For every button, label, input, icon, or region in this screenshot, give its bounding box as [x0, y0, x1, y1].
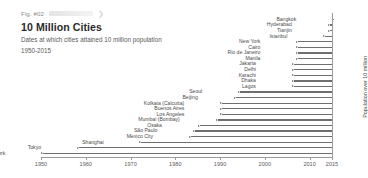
bar-row: Shanghai: [0, 140, 332, 145]
x-axis-tick: [220, 157, 221, 160]
bar[interactable]: [292, 67, 332, 72]
x-axis-tick-label: 2010: [303, 161, 315, 168]
bar-start-arrow-icon: [296, 46, 298, 48]
bar-row: Rio de Janeiro: [0, 51, 332, 56]
bar-fill: [294, 80, 332, 81]
bar-row: New York: [0, 40, 332, 45]
bar[interactable]: [292, 84, 332, 89]
bar-label: Istanbul: [269, 34, 289, 39]
bar[interactable]: [139, 140, 331, 145]
bar-label: Shanghai: [82, 140, 106, 145]
x-axis-tick: [41, 157, 42, 160]
bar[interactable]: [198, 123, 332, 128]
bar-start-arrow-icon: [238, 91, 240, 93]
x-axis-tick-label: 1970: [124, 161, 136, 168]
x-axis-tick-label: 1960: [80, 161, 92, 168]
bar-start-arrow-icon: [292, 85, 294, 87]
bar-fill: [195, 130, 331, 131]
bar-start-arrow-icon: [292, 80, 294, 82]
bar-row: Istanbul: [0, 34, 332, 39]
bar[interactable]: [220, 112, 332, 117]
bar[interactable]: [238, 90, 332, 95]
bar[interactable]: [292, 79, 332, 84]
bar-row: Lagos: [0, 84, 332, 89]
bar-row: Mexico City: [0, 134, 332, 139]
bar[interactable]: [193, 129, 331, 134]
bar[interactable]: [220, 101, 332, 106]
bar-fill: [200, 125, 332, 126]
bar[interactable]: [328, 23, 332, 28]
bar-start-arrow-icon: [296, 41, 298, 43]
bar-fill: [43, 153, 332, 154]
bar-fill: [222, 114, 332, 115]
bar-row: Seoul: [0, 90, 332, 95]
bar-row: São Paulo: [0, 129, 332, 134]
bar-row: Cairo: [0, 45, 332, 50]
right-axis-line: [332, 13, 333, 157]
bar-fill: [218, 119, 332, 120]
bar-label: Lagos: [242, 84, 258, 89]
bar-fill: [298, 58, 331, 59]
bar-fill: [222, 103, 332, 104]
bar-fill: [236, 97, 332, 98]
x-axis-tick: [131, 157, 132, 160]
bar-start-arrow-icon: [77, 147, 79, 149]
bar[interactable]: [323, 34, 332, 39]
bar-fill: [294, 64, 332, 65]
bar-fill: [294, 69, 332, 70]
bar-start-arrow-icon: [328, 24, 330, 26]
bar-start-arrow-icon: [220, 102, 222, 104]
x-axis-tick: [86, 157, 87, 160]
bar[interactable]: [189, 134, 332, 139]
x-axis-tick: [175, 157, 176, 160]
x-axis-tick-label: 1980: [169, 161, 181, 168]
bar-row: New York: [0, 151, 332, 156]
bar[interactable]: [292, 73, 332, 78]
bar-fill: [191, 136, 332, 137]
bar[interactable]: [292, 62, 332, 67]
bar[interactable]: [220, 106, 332, 111]
bar-start-arrow-icon: [296, 52, 298, 54]
bar-row: Tokyo: [0, 146, 332, 151]
bar-start-arrow-icon: [234, 97, 236, 99]
bar-fill: [325, 36, 332, 37]
bar-start-arrow-icon: [189, 136, 191, 138]
bar-row: Manila: [0, 56, 332, 61]
bar[interactable]: [77, 146, 332, 151]
bar-start-arrow-icon: [323, 35, 325, 37]
bar[interactable]: [296, 40, 331, 45]
bar[interactable]: [328, 28, 332, 33]
bar-start-arrow-icon: [296, 58, 298, 60]
bar-row: Karachi: [0, 73, 332, 78]
bar[interactable]: [296, 45, 331, 50]
x-axis-tick-label: 1990: [214, 161, 226, 168]
bar[interactable]: [296, 51, 331, 56]
bar-label: Mexico City: [127, 134, 156, 139]
bar-row: Jakarta: [0, 62, 332, 67]
bar-start-arrow-icon: [193, 130, 195, 132]
bar-fill: [141, 142, 331, 143]
bar-start-arrow-icon: [41, 152, 43, 154]
bar-start-arrow-icon: [220, 113, 222, 115]
bar-start-arrow-icon: [198, 125, 200, 127]
bar-fill: [222, 108, 332, 109]
bar-label: New York: [0, 151, 7, 156]
bar-row: Mumbai (Bombay): [0, 118, 332, 123]
bar[interactable]: [41, 151, 332, 156]
bar-fill: [79, 147, 332, 148]
bar-label: Beijing: [182, 95, 199, 100]
bar[interactable]: [234, 95, 332, 100]
x-axis-tick-label: 1950: [35, 161, 47, 168]
bar[interactable]: [216, 118, 332, 123]
bar-fill: [240, 91, 332, 92]
bar-row: Dhaka: [0, 79, 332, 84]
bar-label: Tokyo: [28, 145, 44, 150]
bar-row: Delhi: [0, 67, 332, 72]
bar[interactable]: [296, 56, 331, 61]
bar-fill: [298, 41, 331, 42]
x-axis-tick-label: 2000: [259, 161, 271, 168]
bar-fill: [294, 75, 332, 76]
bar-start-arrow-icon: [328, 30, 330, 32]
